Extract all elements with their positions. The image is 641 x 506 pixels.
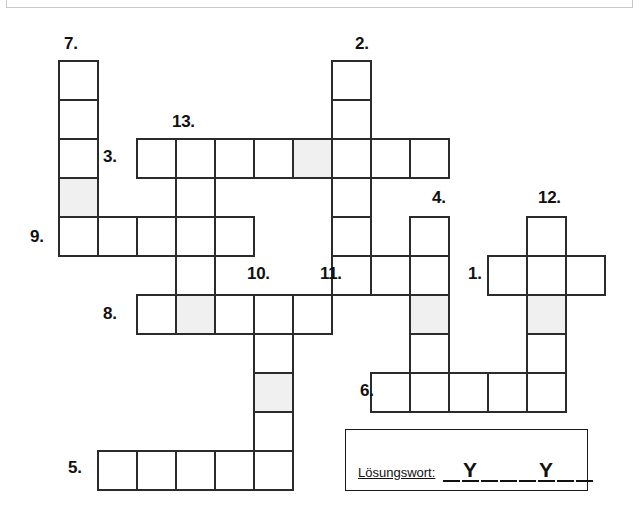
clue-number-13: 13. — [172, 113, 195, 130]
solution-blank[interactable] — [557, 460, 574, 482]
crossword-cell[interactable] — [370, 138, 411, 179]
clue-number-6: 6. — [360, 382, 374, 399]
crossword-cell[interactable] — [487, 255, 528, 296]
solution-blank[interactable] — [576, 460, 593, 482]
crossword-cell[interactable] — [253, 450, 294, 491]
solution-word-row: Lösungswort: Y Y — [358, 458, 595, 482]
clue-number-3: 3. — [103, 148, 117, 165]
crossword-cell[interactable] — [175, 216, 216, 257]
crossword-cell[interactable] — [175, 294, 216, 335]
clue-number-10: 10. — [247, 265, 270, 282]
crossword-cell[interactable] — [214, 216, 255, 257]
clue-number-4: 4. — [432, 189, 446, 206]
crossword-cell[interactable] — [58, 216, 99, 257]
crossword-cell[interactable] — [565, 255, 606, 296]
solution-letter[interactable]: Y — [462, 460, 479, 482]
crossword-cell[interactable] — [331, 60, 372, 101]
crossword-cell[interactable] — [214, 450, 255, 491]
crossword-cell[interactable] — [526, 216, 567, 257]
crossword-cell[interactable] — [331, 177, 372, 218]
crossword-cell[interactable] — [292, 138, 333, 179]
clue-number-2: 2. — [355, 35, 369, 52]
clue-number-7: 7. — [64, 35, 78, 52]
crossword-cell[interactable] — [253, 333, 294, 374]
crossword-cell[interactable] — [409, 255, 450, 296]
clue-number-12: 12. — [538, 189, 561, 206]
crossword-cell[interactable] — [136, 294, 177, 335]
crossword-cell[interactable] — [331, 138, 372, 179]
crossword-cell[interactable] — [175, 138, 216, 179]
crossword-cell[interactable] — [526, 372, 567, 413]
clue-number-11: 11. — [320, 265, 342, 282]
solution-blank[interactable] — [443, 460, 460, 482]
crossword-cell[interactable] — [253, 372, 294, 413]
solution-word-box: Lösungswort: Y Y — [345, 429, 588, 491]
solution-blank[interactable] — [519, 460, 536, 482]
crossword-cell[interactable] — [97, 216, 138, 257]
crossword-cell[interactable] — [58, 99, 99, 140]
clue-number-5: 5. — [68, 459, 82, 476]
crossword-cell[interactable] — [409, 333, 450, 374]
crossword-cell[interactable] — [97, 450, 138, 491]
crossword-cell[interactable] — [409, 138, 450, 179]
crossword-cell[interactable] — [331, 99, 372, 140]
crossword-cell[interactable] — [58, 138, 99, 179]
solution-word-label: Lösungswort: — [358, 465, 435, 480]
crossword-cell[interactable] — [526, 294, 567, 335]
crossword-cell[interactable] — [370, 255, 411, 296]
solution-letter[interactable]: Y — [538, 460, 555, 482]
crossword-cell[interactable] — [58, 177, 99, 218]
crossword-cell[interactable] — [292, 294, 333, 335]
crossword-cell[interactable] — [526, 333, 567, 374]
crossword-cell[interactable] — [370, 372, 411, 413]
crossword-cell[interactable] — [214, 294, 255, 335]
clue-number-9: 9. — [30, 228, 44, 245]
clue-number-1: 1. — [468, 265, 482, 282]
crossword-cell[interactable] — [175, 255, 216, 296]
crossword-cell[interactable] — [409, 372, 450, 413]
crossword-cell[interactable] — [136, 216, 177, 257]
crossword-cell[interactable] — [253, 294, 294, 335]
crossword-cell[interactable] — [214, 138, 255, 179]
clue-number-8: 8. — [103, 305, 117, 322]
crossword-cell[interactable] — [253, 411, 294, 452]
crossword-cell[interactable] — [409, 294, 450, 335]
solution-blank[interactable] — [500, 460, 517, 482]
crossword-cell[interactable] — [448, 372, 489, 413]
crossword-cell[interactable] — [487, 372, 528, 413]
crossword-cell[interactable] — [253, 138, 294, 179]
crossword-cell[interactable] — [331, 216, 372, 257]
crossword-cell[interactable] — [58, 60, 99, 101]
crossword-cell[interactable] — [175, 177, 216, 218]
crossword-cell[interactable] — [136, 138, 177, 179]
crossword-cell[interactable] — [136, 450, 177, 491]
crossword-cell[interactable] — [175, 450, 216, 491]
solution-word-blanks[interactable]: Y Y — [443, 458, 595, 482]
crossword-cell[interactable] — [526, 255, 567, 296]
solution-blank[interactable] — [481, 460, 498, 482]
crossword-cell[interactable] — [409, 216, 450, 257]
